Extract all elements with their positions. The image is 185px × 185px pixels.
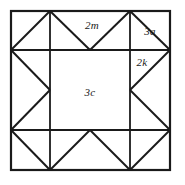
label-2m: 2m [85, 20, 99, 31]
label-3a: 3a [144, 26, 155, 37]
diagram-canvas: 2m 3a 2k 3c [0, 0, 185, 185]
label-2k: 2k [137, 57, 148, 68]
label-3c: 3c [85, 87, 96, 98]
